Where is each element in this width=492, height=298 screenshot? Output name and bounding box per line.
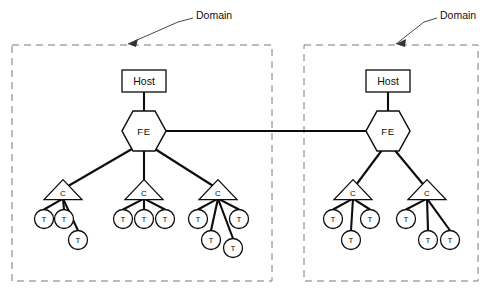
concentrator-label: C bbox=[350, 189, 356, 198]
concentrator-label: C bbox=[424, 189, 430, 198]
fe-label: FE bbox=[381, 126, 394, 137]
link-concentrator-0-to-terminal-2 bbox=[351, 199, 353, 231]
terminal-label: T bbox=[142, 215, 147, 224]
link-concentrator-1-to-terminal-2 bbox=[427, 199, 450, 231]
terminal-label: T bbox=[209, 236, 214, 245]
terminal-label: T bbox=[426, 236, 431, 245]
terminal-label: T bbox=[163, 215, 168, 224]
host-label: Host bbox=[133, 75, 155, 87]
terminal-label: T bbox=[231, 244, 236, 253]
link-concentrator-2-to-terminal-2 bbox=[211, 199, 218, 231]
nodes-layer: HostFECTTTCTTTCTTTTHostFECTTTCTTT bbox=[35, 70, 460, 258]
domain-label-left: Domain bbox=[196, 9, 232, 21]
terminal-label: T bbox=[404, 215, 409, 224]
terminal-label: T bbox=[62, 215, 67, 224]
terminal-label: T bbox=[42, 215, 47, 224]
link-concentrator-1-to-terminal-1 bbox=[427, 199, 428, 231]
network-topology-diagram: HostFECTTTCTTTCTTTTHostFECTTTCTTT Domain… bbox=[0, 0, 492, 298]
terminal-label: T bbox=[121, 215, 126, 224]
annotations-layer: DomainDomain bbox=[128, 9, 476, 47]
diagram-canvas: HostFECTTTCTTTCTTTTHostFECTTTCTTT Domain… bbox=[0, 0, 492, 298]
fe-label: FE bbox=[137, 126, 150, 137]
terminal-label: T bbox=[448, 236, 453, 245]
terminal-label: T bbox=[349, 236, 354, 245]
terminal-label: T bbox=[331, 215, 336, 224]
terminal-label: T bbox=[76, 236, 81, 245]
leader-line-domain-label-left bbox=[128, 18, 193, 44]
terminal-label: T bbox=[196, 215, 201, 224]
terminal-label: T bbox=[368, 215, 373, 224]
terminal-label: T bbox=[237, 215, 242, 224]
concentrator-label: C bbox=[215, 189, 221, 198]
leader-line-domain-label-right bbox=[396, 18, 437, 44]
domain-label-right: Domain bbox=[440, 9, 476, 21]
host-label: Host bbox=[377, 75, 399, 87]
concentrator-label: C bbox=[60, 189, 66, 198]
concentrator-label: C bbox=[141, 189, 147, 198]
